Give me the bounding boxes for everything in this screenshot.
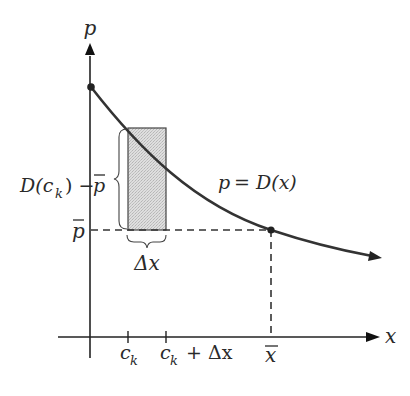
width-brace (127, 235, 166, 248)
svg-text:p: p (218, 171, 230, 193)
equilibrium-price-label: p (72, 219, 85, 243)
svg-text:k: k (130, 353, 138, 368)
x-axis-label: x (385, 324, 396, 348)
rectangle-height-label: D(c k ) − p (19, 174, 105, 201)
x-axis-arrow-icon (366, 332, 380, 342)
height-brace (114, 129, 127, 229)
curve-label: p = D(x) (218, 171, 297, 193)
intercept-point (87, 83, 95, 91)
riemann-rectangle (128, 128, 166, 230)
svg-text:=: = (234, 171, 250, 193)
y-axis-arrow-icon (85, 43, 95, 55)
svg-text:k: k (170, 353, 178, 368)
svg-text:+ Δx: + Δx (186, 341, 233, 363)
tick-label-ck-plus-dx: c k + Δx (160, 341, 233, 368)
rectangle-width-label: Δx (133, 251, 160, 275)
tick-label-ck: c k (120, 341, 138, 368)
svg-text:k: k (55, 186, 63, 201)
svg-text:D(c: D(c (19, 174, 54, 196)
demand-curve-arrow-icon (368, 251, 382, 261)
svg-text:) −: ) − (65, 174, 94, 196)
svg-text:p: p (72, 219, 85, 243)
svg-text:D(x): D(x) (255, 171, 297, 193)
diagram-canvas: p x p x p = D(x) D(c k ) − p Δx (0, 0, 410, 396)
svg-text:p: p (93, 174, 105, 196)
demand-curve-diagram: p x p x p = D(x) D(c k ) − p Δx (0, 0, 410, 396)
equilibrium-quantity-label: x (265, 343, 278, 367)
y-axis-label: p (84, 16, 97, 40)
equilibrium-point (267, 226, 274, 233)
